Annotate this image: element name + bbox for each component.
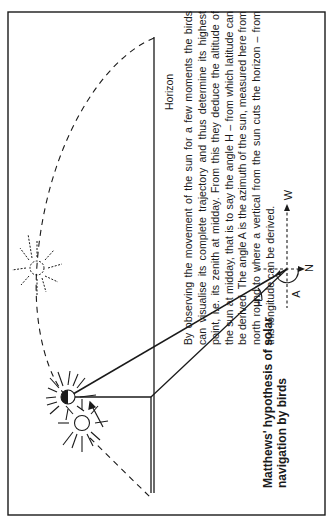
horizon-label: Horizon <box>163 74 175 110</box>
north-label: N <box>303 264 315 272</box>
observed-sun-icon <box>58 399 108 452</box>
explanation-text: By observing the movement of the sun for… <box>182 11 277 345</box>
sun-trajectory-continuation <box>90 438 150 497</box>
west-label: W <box>282 190 294 200</box>
west-arrow-icon <box>284 204 290 211</box>
sun-trajectory <box>36 38 154 396</box>
angle-a-label: A <box>290 290 302 297</box>
angle-h-label: H <box>252 299 264 307</box>
zenith-sun-icon <box>46 371 96 420</box>
figure-caption: Matthews' hypothesis of solar navigation… <box>262 308 289 488</box>
